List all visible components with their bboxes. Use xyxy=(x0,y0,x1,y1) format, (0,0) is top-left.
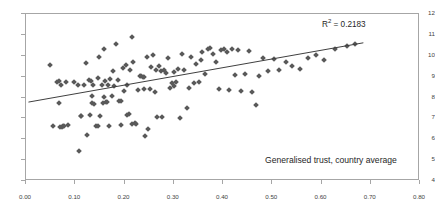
data-point xyxy=(98,113,104,119)
x-tick-label: 0.50 xyxy=(265,194,277,200)
data-point xyxy=(305,55,311,61)
r-squared-annotation: R2 = 0.2183 xyxy=(322,18,366,29)
x-tick-mark xyxy=(74,180,75,184)
data-point xyxy=(109,93,115,99)
x-tick-mark xyxy=(271,180,272,184)
x-tick-label: 0.00 xyxy=(19,194,31,200)
y-tick-mark xyxy=(21,76,25,77)
data-point xyxy=(57,101,63,107)
data-point xyxy=(75,82,81,88)
y-tick-mark xyxy=(21,138,25,139)
data-point xyxy=(50,123,56,129)
data-point xyxy=(265,68,271,74)
data-point xyxy=(238,88,244,94)
data-point xyxy=(121,88,127,94)
data-point xyxy=(271,56,277,62)
data-point xyxy=(90,93,96,99)
data-point xyxy=(141,74,147,80)
data-point xyxy=(141,86,147,92)
data-point xyxy=(177,116,183,122)
data-point xyxy=(78,113,84,119)
data-point xyxy=(90,82,96,88)
data-point xyxy=(198,57,204,63)
y-tick-label: 11 xyxy=(415,31,435,37)
data-point xyxy=(283,59,289,65)
data-point xyxy=(84,133,90,139)
y-tick-label: 9 xyxy=(415,73,435,79)
data-point xyxy=(76,149,82,155)
data-point xyxy=(232,72,238,78)
data-point xyxy=(184,105,190,111)
y-tick-mark xyxy=(21,97,25,98)
data-point xyxy=(249,89,255,95)
x-tick-label: 0.30 xyxy=(167,194,179,200)
data-point xyxy=(181,67,187,73)
data-point xyxy=(106,123,112,129)
data-point xyxy=(95,75,101,81)
data-point xyxy=(145,126,151,132)
data-point xyxy=(131,59,137,65)
data-point xyxy=(105,82,111,88)
data-point xyxy=(199,49,205,55)
data-point xyxy=(144,54,150,60)
y-tick-label: 4 xyxy=(415,177,435,183)
y-tick-mark xyxy=(21,34,25,35)
data-point xyxy=(332,47,338,53)
data-point xyxy=(111,83,117,89)
data-point xyxy=(210,51,216,57)
data-point xyxy=(227,87,233,93)
x-tick-mark xyxy=(419,180,420,184)
y-tick-label: 6 xyxy=(415,135,435,141)
data-point xyxy=(253,103,259,109)
data-point xyxy=(194,61,200,67)
data-point xyxy=(64,79,70,85)
x-tick-label: 0.20 xyxy=(117,194,129,200)
y-tick-label: 10 xyxy=(415,52,435,58)
data-point xyxy=(118,122,124,128)
x-tick-label: 0.80 xyxy=(413,194,425,200)
data-point xyxy=(235,47,241,53)
x-tick-mark xyxy=(25,180,26,184)
data-point xyxy=(186,85,192,91)
data-point xyxy=(179,51,185,57)
data-point xyxy=(246,48,252,54)
data-point xyxy=(125,82,131,88)
y-tick-label: 8 xyxy=(415,93,435,99)
data-point xyxy=(101,47,107,53)
data-point xyxy=(113,41,119,47)
x-tick-label: 0.60 xyxy=(314,194,326,200)
x-tick-label: 0.10 xyxy=(68,194,80,200)
data-point xyxy=(96,55,102,61)
x-tick-mark xyxy=(222,180,223,184)
data-point xyxy=(352,41,358,47)
data-point xyxy=(150,52,156,58)
data-point xyxy=(163,70,169,76)
data-point xyxy=(65,122,71,128)
data-point xyxy=(128,68,134,74)
x-tick-mark xyxy=(321,180,322,184)
data-point xyxy=(165,55,171,61)
data-point xyxy=(242,71,248,77)
data-point xyxy=(216,86,222,92)
data-point xyxy=(115,77,121,83)
y-tick-label: 7 xyxy=(415,114,435,120)
x-tick-mark xyxy=(370,180,371,184)
data-point xyxy=(107,76,113,82)
data-point xyxy=(92,101,98,107)
data-point xyxy=(313,52,319,58)
data-point xyxy=(123,62,129,68)
data-point xyxy=(159,114,165,120)
data-point xyxy=(135,87,141,93)
x-tick-mark xyxy=(173,180,174,184)
data-point xyxy=(224,49,230,55)
data-point xyxy=(47,62,53,68)
data-point xyxy=(142,133,148,139)
data-point xyxy=(297,66,303,72)
y-tick-mark xyxy=(21,55,25,56)
y-tick-mark xyxy=(21,13,25,14)
data-point xyxy=(110,69,116,75)
data-point xyxy=(129,34,135,40)
data-point xyxy=(256,73,262,79)
x-tick-label: 0.70 xyxy=(364,194,376,200)
data-point xyxy=(260,55,266,61)
